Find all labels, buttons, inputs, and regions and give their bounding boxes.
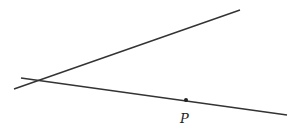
point-p	[184, 98, 188, 102]
geometry-diagram: P	[0, 0, 300, 133]
point-p-label: P	[179, 111, 189, 126]
line-2	[21, 78, 287, 115]
line-1	[14, 10, 240, 89]
